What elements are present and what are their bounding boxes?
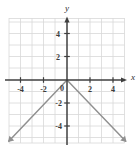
y-axis-arrow-icon	[64, 17, 69, 23]
x-tick-label-4: 4	[111, 85, 115, 94]
y-axis-name: y	[64, 3, 69, 13]
x-tick-label-2: 2	[88, 85, 92, 94]
x-tick-label--2: -2	[40, 85, 47, 94]
graph-figure: -4 -2 0 2 4 4 2 -2 -4 y x	[0, 0, 139, 146]
y-tick-label--2: -2	[55, 99, 62, 108]
x-tick-label--4: -4	[17, 85, 24, 94]
y-tick-label-2: 2	[56, 53, 60, 62]
x-tick-label-0: 0	[60, 84, 64, 93]
coordinate-plane-svg: -4 -2 0 2 4 4 2 -2 -4 y x	[0, 0, 139, 146]
y-tick-label-4: 4	[56, 30, 60, 39]
y-tick-label--4: -4	[55, 122, 62, 131]
x-axis-arrow-icon	[121, 77, 127, 82]
x-axis-name: x	[130, 72, 135, 82]
